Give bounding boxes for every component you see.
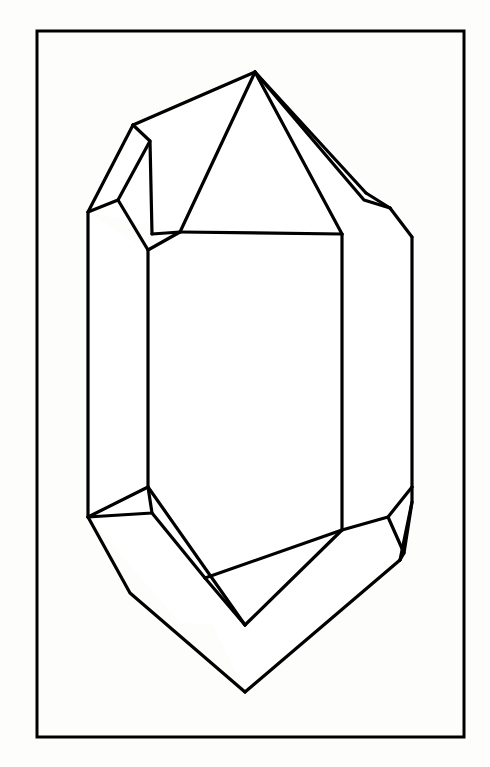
front-top-edge [180,232,342,234]
crystal-illustration [0,0,490,767]
right-prism-face [342,208,412,530]
left-facet-top-divider [152,232,180,234]
upper-left-sliver-face-edge [150,141,152,234]
figure-root: Crystal habit line drawing [0,0,490,767]
left-prism-face [88,212,148,517]
